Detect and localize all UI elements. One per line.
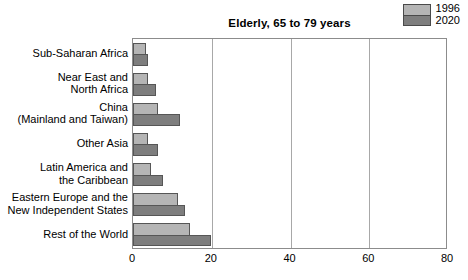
bar-2020 (133, 84, 156, 96)
x-tick-label-80: 80 (441, 252, 453, 264)
chart-figure: 1996 2020 Elderly, 65 to 79 years Sub-Sa… (0, 0, 468, 280)
bar-2020 (133, 235, 211, 247)
bar-group-sub-saharan-africa (133, 39, 446, 69)
bar-group-rest-of-the-world (133, 220, 446, 250)
category-label-line: (Mainland and Taiwan) (18, 113, 128, 126)
bar-1996 (133, 43, 146, 55)
category-label-other-asia: Other Asia (0, 128, 128, 158)
bar-2020 (133, 54, 148, 66)
category-label-eastern-europe-and-the-new-independent-states: Eastern Europe and the New Independent S… (0, 189, 128, 219)
bar-2020 (133, 175, 163, 187)
bar-1996 (133, 103, 158, 115)
legend-swatch-1996 (403, 4, 431, 15)
x-tick-label-20: 20 (205, 252, 217, 264)
category-label-rest-of-the-world: Rest of the World (0, 219, 128, 249)
category-label-line: Sub-Saharan Africa (33, 47, 128, 60)
category-label-line: Near East and (58, 71, 128, 84)
legend-label-1996: 1996 (436, 3, 460, 15)
chart-title: Elderly, 65 to 79 years (132, 17, 447, 29)
x-tick-label-60: 60 (362, 252, 374, 264)
x-tick-label-40: 40 (283, 252, 295, 264)
bar-1996 (133, 193, 178, 205)
bar-group-latin-america-and-the-caribbean (133, 160, 446, 190)
bar-1996 (133, 223, 190, 235)
category-label-line: Latin America and (40, 161, 128, 174)
category-axis-labels: Sub-Saharan Africa Near East and North A… (0, 38, 132, 249)
bar-2020 (133, 114, 180, 126)
x-tick-label-0: 0 (129, 252, 135, 264)
category-label-china: China (Mainland and Taiwan) (0, 98, 128, 128)
category-label-line: Other Asia (77, 137, 128, 150)
bar-1996 (133, 73, 148, 85)
bar-1996 (133, 163, 151, 175)
category-label-line: Eastern Europe and the (12, 191, 128, 204)
plot-area (132, 38, 447, 249)
category-label-latin-america-and-the-caribbean: Latin America and the Caribbean (0, 159, 128, 189)
bar-2020 (133, 205, 185, 217)
category-label-line: New Independent States (8, 204, 128, 217)
bar-group-eastern-europe-and-the-new-independent-states (133, 190, 446, 220)
category-label-sub-saharan-africa: Sub-Saharan Africa (0, 38, 128, 68)
bar-group-china (133, 99, 446, 129)
bar-1996 (133, 133, 148, 145)
x-axis: 0 20 40 60 80 (132, 252, 447, 270)
bar-group-other-asia (133, 129, 446, 159)
category-label-line: North Africa (71, 83, 128, 96)
category-label-line: China (99, 101, 128, 114)
category-label-near-east-and-north-africa: Near East and North Africa (0, 68, 128, 98)
category-label-line: the Caribbean (59, 174, 128, 187)
category-label-line: Rest of the World (43, 228, 128, 241)
bar-2020 (133, 144, 158, 156)
bar-group-near-east-and-north-africa (133, 69, 446, 99)
